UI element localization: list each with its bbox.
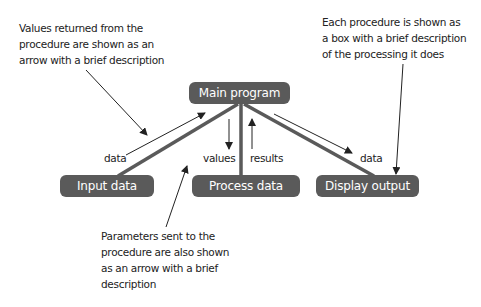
flow-arrows (126, 113, 352, 155)
annotation-parameters: Parameters sent to the procedure are als… (101, 228, 229, 292)
display-output-label: Display output (325, 179, 410, 193)
flow-label-input-data: data (104, 150, 126, 166)
input-data-box: Input data (60, 175, 154, 197)
flow-label-display-data: data (360, 150, 382, 166)
annotation-procedure-box: Each procedure is shown as a box with a … (322, 14, 466, 62)
input-data-label: Input data (77, 179, 137, 193)
annotation-returned-values: Values returned from the procedure are s… (19, 20, 164, 68)
process-data-box: Process data (192, 175, 300, 197)
display-output-box: Display output (316, 175, 419, 197)
process-data-label: Process data (209, 179, 283, 193)
main-program-label: Main program (199, 86, 280, 100)
flow-label-results: results (250, 150, 283, 166)
flow-label-values: values (203, 150, 235, 166)
hierarchy-lines (118, 104, 374, 176)
main-program-box: Main program (189, 82, 290, 104)
